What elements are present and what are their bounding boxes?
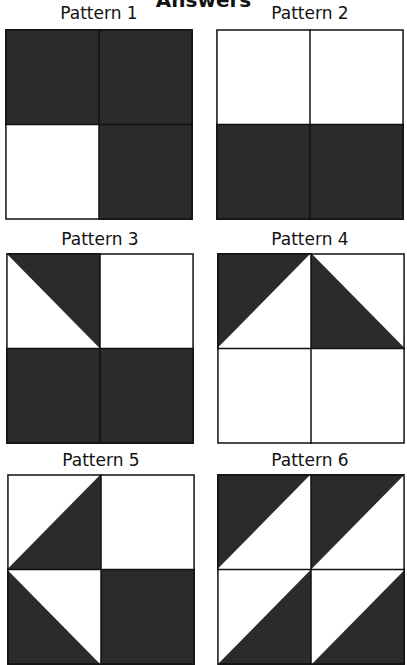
pattern-5-label: Pattern 5 <box>6 450 196 470</box>
quilt-block-svg <box>216 29 404 220</box>
pattern-cell-bottom-right <box>100 349 194 445</box>
pattern-2-label: Pattern 2 <box>215 3 405 23</box>
pattern-cell-top-left <box>216 29 310 125</box>
pattern-cell-top-right <box>101 474 195 570</box>
pattern-cell-bottom-right <box>311 349 405 445</box>
pattern-cell-bottom-left <box>6 349 100 445</box>
pattern-6-grid <box>217 474 405 665</box>
quilt-block-svg <box>217 253 405 444</box>
pattern-6-label: Pattern 6 <box>215 450 405 470</box>
pattern-cell-bottom-left <box>5 125 99 221</box>
pattern-cell-bottom-left <box>216 125 310 221</box>
pattern-cell-top-left <box>217 474 311 570</box>
quilt-block-svg <box>6 253 194 444</box>
pattern-cell-bottom-right <box>101 570 195 665</box>
pattern-4-label: Pattern 4 <box>215 229 405 249</box>
pattern-cell-bottom-right <box>99 125 193 221</box>
pattern-3-grid <box>6 253 194 444</box>
pattern-cell-top-right <box>310 29 404 125</box>
pattern-5-grid <box>7 474 195 665</box>
pattern-4-grid <box>217 253 405 444</box>
pattern-1-grid <box>5 29 193 220</box>
quilt-block-svg <box>217 474 405 665</box>
pattern-cell-bottom-left <box>217 349 311 445</box>
pattern-2-grid <box>216 29 404 220</box>
pattern-cell-bottom-right <box>311 570 405 665</box>
pattern-cell-top-right <box>99 29 193 125</box>
pattern-cell-top-right <box>311 474 405 570</box>
quilt-block-svg <box>5 29 193 220</box>
pattern-3-label: Pattern 3 <box>5 229 195 249</box>
pattern-cell-bottom-left <box>217 570 311 665</box>
pattern-cell-bottom-right <box>310 125 404 221</box>
pattern-cell-bottom-left <box>7 570 101 665</box>
quilt-block-svg <box>7 474 195 665</box>
pattern-cell-top-right <box>311 253 405 349</box>
pattern-cell-top-left <box>5 29 99 125</box>
pattern-cell-top-left <box>6 253 100 349</box>
pattern-cell-top-left <box>217 253 311 349</box>
pattern-cell-top-right <box>100 253 194 349</box>
pattern-1-label: Pattern 1 <box>4 3 194 23</box>
pattern-cell-top-left <box>7 474 101 570</box>
